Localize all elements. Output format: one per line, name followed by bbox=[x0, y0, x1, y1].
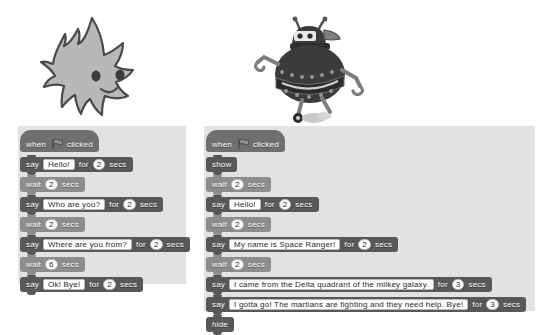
block-word: secs bbox=[503, 300, 520, 309]
green-flag-icon bbox=[237, 138, 248, 149]
block-say[interactable]: sayHello!for2secs bbox=[206, 197, 319, 212]
block-row: sayHello!for2secs bbox=[20, 153, 190, 173]
block-word: wait bbox=[212, 220, 227, 229]
block-word: say bbox=[212, 280, 225, 289]
block-word: for bbox=[109, 200, 119, 209]
block-row: wait6secs bbox=[20, 253, 190, 273]
say-secs-field[interactable]: 3 bbox=[452, 279, 465, 290]
space-ranger-robot-sprite[interactable] bbox=[252, 12, 374, 124]
block-row: hide bbox=[206, 313, 526, 333]
block-word: secs bbox=[120, 280, 137, 289]
block-word: say bbox=[26, 200, 39, 209]
block-when-flag-clicked[interactable]: whenclicked bbox=[206, 130, 285, 152]
block-word: secs bbox=[248, 180, 265, 189]
gobo-sprite-image bbox=[40, 14, 150, 122]
block-word: secs bbox=[140, 200, 157, 209]
block-say[interactable]: sayI gotta go! The martians are fighting… bbox=[206, 297, 526, 312]
block-row: sayHello!for2secs bbox=[206, 193, 526, 213]
wait-secs-field[interactable]: 6 bbox=[45, 259, 58, 270]
say-text-field[interactable]: Ok! Bye! bbox=[43, 279, 85, 290]
say-secs-field[interactable]: 2 bbox=[103, 279, 116, 290]
block-word: secs bbox=[62, 180, 79, 189]
block-word: wait bbox=[26, 260, 41, 269]
block-wait[interactable]: wait2secs bbox=[20, 217, 85, 232]
block-row: show bbox=[206, 153, 526, 173]
block-row: sayWho are you?for2secs bbox=[20, 193, 190, 213]
block-row: whenclicked bbox=[20, 130, 190, 153]
gobo-sprite[interactable] bbox=[40, 14, 150, 122]
block-word: for bbox=[472, 300, 482, 309]
block-word: say bbox=[26, 280, 39, 289]
block-wait[interactable]: wait2secs bbox=[20, 177, 85, 192]
block-word: secs bbox=[62, 260, 79, 269]
block-word: secs bbox=[295, 200, 312, 209]
block-wait[interactable]: wait6secs bbox=[20, 257, 85, 272]
block-row: sayMy name is Space Ranger!for2secs bbox=[206, 233, 526, 253]
block-word: say bbox=[212, 300, 225, 309]
wait-secs-field[interactable]: 2 bbox=[231, 219, 244, 230]
block-word: show bbox=[212, 160, 231, 169]
gobo-script[interactable]: whenclickedsayHello!for2secswait2secssay… bbox=[20, 130, 190, 293]
block-word: for bbox=[136, 240, 146, 249]
block-row: sayI came from the Delta quadrant of the… bbox=[206, 273, 526, 293]
block-row: sayWhere are you from?for2secs bbox=[20, 233, 190, 253]
block-word: when bbox=[212, 140, 232, 149]
wait-secs-field[interactable]: 2 bbox=[45, 219, 58, 230]
block-row: sayI gotta go! The martians are fighting… bbox=[206, 293, 526, 313]
say-secs-field[interactable]: 3 bbox=[486, 299, 499, 310]
say-text-field[interactable]: Where are you from? bbox=[43, 239, 132, 250]
block-word: for bbox=[344, 240, 354, 249]
space-ranger-robot-image bbox=[252, 12, 374, 124]
say-text-field[interactable]: I gotta go! The martians are fighting an… bbox=[229, 299, 468, 310]
say-text-field[interactable]: My name is Space Ranger! bbox=[229, 239, 340, 250]
block-wait[interactable]: wait2secs bbox=[206, 217, 271, 232]
block-word: secs bbox=[248, 220, 265, 229]
block-word: secs bbox=[62, 220, 79, 229]
block-word: say bbox=[212, 200, 225, 209]
block-word: wait bbox=[26, 220, 41, 229]
block-say[interactable]: sayI came from the Delta quadrant of the… bbox=[206, 277, 492, 292]
block-word: clicked bbox=[67, 140, 93, 149]
space-ranger-script[interactable]: whenclickedshowwait2secssayHello!for2sec… bbox=[206, 130, 526, 333]
block-word: for bbox=[265, 200, 275, 209]
block-word: secs bbox=[468, 280, 485, 289]
say-text-field[interactable]: Hello! bbox=[229, 199, 261, 210]
say-secs-field[interactable]: 2 bbox=[93, 159, 106, 170]
say-secs-field[interactable]: 2 bbox=[358, 239, 371, 250]
block-row: whenclicked bbox=[206, 130, 526, 153]
block-row: wait2secs bbox=[206, 253, 526, 273]
say-secs-field[interactable]: 2 bbox=[150, 239, 163, 250]
block-row: sayOk! Bye!for2secs bbox=[20, 273, 190, 293]
block-show[interactable]: show bbox=[206, 157, 237, 172]
block-say[interactable]: sayHello!for2secs bbox=[20, 157, 133, 172]
block-word: clicked bbox=[253, 140, 279, 149]
block-row: wait2secs bbox=[206, 213, 526, 233]
block-wait[interactable]: wait2secs bbox=[206, 177, 271, 192]
block-word: secs bbox=[375, 240, 392, 249]
block-word: wait bbox=[212, 180, 227, 189]
wait-secs-field[interactable]: 2 bbox=[45, 179, 58, 190]
block-word: hide bbox=[212, 320, 228, 329]
say-secs-field[interactable]: 2 bbox=[123, 199, 136, 210]
block-row: wait2secs bbox=[20, 173, 190, 193]
block-word: for bbox=[438, 280, 448, 289]
wait-secs-field[interactable]: 2 bbox=[231, 259, 244, 270]
wait-secs-field[interactable]: 2 bbox=[231, 179, 244, 190]
block-wait[interactable]: wait2secs bbox=[206, 257, 271, 272]
block-hide[interactable]: hide bbox=[206, 317, 234, 332]
green-flag-icon bbox=[51, 138, 62, 149]
block-row: wait2secs bbox=[20, 213, 190, 233]
block-say[interactable]: sayWho are you?for2secs bbox=[20, 197, 163, 212]
block-row: wait2secs bbox=[206, 173, 526, 193]
say-text-field[interactable]: Hello! bbox=[43, 159, 75, 170]
block-word: say bbox=[212, 240, 225, 249]
block-word: say bbox=[26, 160, 39, 169]
say-text-field[interactable]: Who are you? bbox=[43, 199, 105, 210]
block-say[interactable]: sayMy name is Space Ranger!for2secs bbox=[206, 237, 398, 252]
block-say[interactable]: sayWhere are you from?for2secs bbox=[20, 237, 190, 252]
say-text-field[interactable]: I came from the Delta quadrant of the mi… bbox=[229, 279, 434, 290]
block-when-flag-clicked[interactable]: whenclicked bbox=[20, 130, 99, 152]
block-word: say bbox=[26, 240, 39, 249]
block-say[interactable]: sayOk! Bye!for2secs bbox=[20, 277, 143, 292]
say-secs-field[interactable]: 2 bbox=[279, 199, 292, 210]
